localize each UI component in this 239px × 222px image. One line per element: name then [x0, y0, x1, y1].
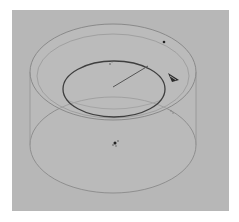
cylinder-top-edge [30, 24, 196, 120]
cylinder-scene[interactable] [0, 0, 239, 222]
top-point-marker[interactable] [163, 41, 166, 44]
